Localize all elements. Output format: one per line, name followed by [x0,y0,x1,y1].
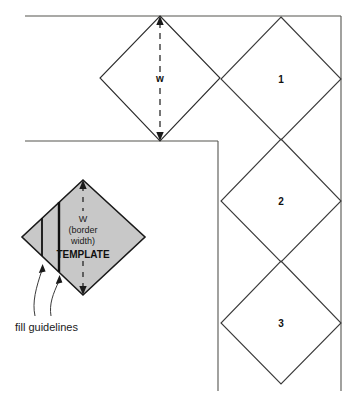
callout-leader-line-1 [34,270,42,316]
template-tile: W (border width) TEMPLATE [22,180,145,295]
dimension-arrow-w: w [152,16,169,141]
template-label-width: width) [70,236,95,246]
dimension-label-w: w [155,73,164,84]
numbered-tile-1: 1 [221,17,341,140]
callout-arrowhead-1 [39,264,46,273]
callout-arrowhead-2 [56,275,63,284]
tile-2-number: 2 [278,196,284,207]
fill-guidelines-caption: fill guidelines [15,321,78,333]
callout-leader-line-2 [50,281,59,316]
dimension-arrowhead-down [156,132,163,141]
numbered-tile-3: 3 [221,261,341,384]
template-label-w: W [79,214,88,224]
tile-border-diagram: w 1 2 3 [0,0,358,401]
tile-1-number: 1 [278,74,284,85]
tile-3-number: 3 [278,318,284,329]
numbered-tile-2: 2 [221,139,341,262]
template-label-border: (border [68,225,97,235]
dimension-arrowhead-up [156,16,163,25]
template-label-template: TEMPLATE [56,249,109,260]
diagram-canvas: w 1 2 3 [0,0,358,401]
